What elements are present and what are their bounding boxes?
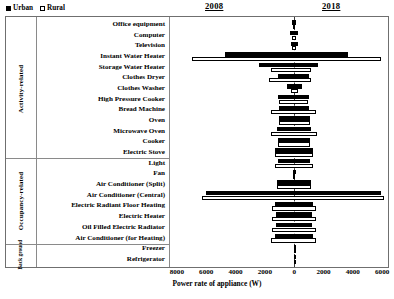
bar-urban	[291, 42, 298, 46]
bar-urban	[290, 31, 298, 35]
bar-rural	[271, 110, 316, 114]
category-label: Clothes Dryer	[36, 74, 167, 81]
bar-urban	[294, 255, 296, 259]
legend-item-urban: Urban	[6, 5, 33, 12]
group-label: Occupancy-related	[6, 158, 36, 243]
x-axis-tick-label: 0	[292, 268, 296, 276]
bar-rural	[277, 185, 311, 189]
category-label: Air Conditioner (for Heating)	[36, 235, 167, 242]
bar-urban	[206, 191, 380, 195]
bar-rural	[271, 238, 316, 242]
x-axis-tick-label: 4000	[228, 268, 242, 276]
category-label: Electric Stove	[36, 149, 167, 156]
bar-rural	[294, 260, 296, 264]
category-label: Freezer	[36, 245, 167, 252]
bar-rural	[272, 228, 316, 232]
category-label: Clothes Washer	[36, 85, 167, 92]
bar-rural	[271, 68, 311, 72]
category-label: Electric Heater	[36, 213, 167, 220]
group-label-text: Occupancy-related	[17, 172, 25, 230]
x-axis-tick-label: 6000	[375, 268, 389, 276]
bar-rural	[272, 206, 316, 210]
bar-urban	[276, 223, 313, 227]
x-axis-tick-label: 8000	[170, 268, 184, 276]
bar-rural	[294, 249, 296, 253]
category-label: Air Conditioner (Central)	[36, 192, 167, 199]
bar-rural	[192, 57, 380, 61]
bar-rural	[202, 196, 384, 200]
x-axis-tick-label: 6000	[199, 268, 213, 276]
bar-rural	[279, 121, 310, 125]
bar-urban	[293, 170, 296, 174]
plot-area	[171, 17, 388, 267]
bar-urban	[277, 180, 311, 184]
category-label: Oven	[36, 117, 167, 124]
group-label: Back ground	[6, 244, 36, 265]
x-axis-tick-label: 4000	[346, 268, 360, 276]
legend-swatch-open-square-icon	[40, 6, 45, 11]
x-axis-tick-label: 2000	[258, 268, 272, 276]
bar-urban	[279, 116, 310, 120]
legend-label-urban: Urban	[13, 5, 33, 12]
category-label: Television	[36, 42, 167, 49]
category-label: Microwave Oven	[36, 128, 167, 135]
bar-rural	[279, 100, 308, 104]
bar-rural	[275, 153, 313, 157]
x-axis-tick-label: 2000	[316, 268, 330, 276]
category-label: Electric Radiant Floor Heating	[36, 202, 167, 209]
chart-figure: Urban Rural 2008 2018 Activity-relatedOc…	[0, 0, 394, 299]
bar-rural	[293, 25, 295, 29]
category-label: Computer	[36, 32, 167, 39]
category-label: Refrigerator	[36, 256, 167, 263]
bar-urban	[278, 159, 310, 163]
category-label: Cooker	[36, 138, 167, 145]
bar-rural	[272, 217, 316, 221]
group-label-text: Activity-related	[17, 65, 25, 114]
group-separator	[6, 244, 169, 245]
bar-rural	[292, 46, 296, 50]
bar-rural	[269, 78, 311, 82]
group-label: Activity-related	[6, 20, 36, 159]
chart-plot-frame: Activity-relatedOccupancy-relatedBack gr…	[5, 16, 389, 268]
bar-urban	[278, 74, 308, 78]
bar-urban	[278, 95, 309, 99]
category-label: Air Conditioner (Split)	[36, 181, 167, 188]
chart-legend: Urban Rural	[6, 5, 65, 12]
panel-header-2018: 2018	[322, 1, 340, 11]
bar-urban	[278, 138, 309, 142]
group-column-divider	[36, 17, 37, 267]
x-axis-title: Power rate of appliance (W)	[0, 279, 394, 288]
legend-swatch-filled-square-icon	[6, 6, 11, 11]
bar-urban	[276, 212, 312, 216]
category-label: Instant Water Heater	[36, 53, 167, 60]
bar-urban	[292, 20, 296, 24]
bar-urban	[225, 52, 347, 56]
bar-rural	[292, 36, 297, 40]
bar-urban	[259, 63, 318, 67]
bar-urban	[277, 127, 311, 131]
category-label: Bread Machine	[36, 106, 167, 113]
bar-rural	[275, 164, 313, 168]
category-label: Storage Water Heater	[36, 64, 167, 71]
panel-header-2008: 2008	[205, 1, 223, 11]
category-label: Oil Filled Electric Radiator	[36, 224, 167, 231]
category-label: Light	[36, 160, 167, 167]
label-column-divider	[169, 17, 170, 267]
group-separator	[6, 158, 169, 159]
legend-label-rural: Rural	[47, 5, 65, 12]
bar-urban	[287, 84, 302, 88]
category-label: High Pressure Cooker	[36, 96, 167, 103]
bar-urban	[275, 234, 314, 238]
bar-urban	[275, 202, 313, 206]
bar-urban	[279, 106, 309, 110]
bar-rural	[278, 142, 311, 146]
bar-rural	[271, 132, 317, 136]
category-label: Fan	[36, 170, 167, 177]
bar-rural	[291, 89, 298, 93]
legend-item-rural: Rural	[40, 5, 65, 12]
x-axis-title-text: Power rate of appliance (W)	[173, 279, 262, 288]
category-label: Office equipment	[36, 21, 167, 28]
bar-rural	[293, 174, 295, 178]
bar-urban	[275, 148, 313, 152]
bar-urban	[294, 245, 296, 249]
